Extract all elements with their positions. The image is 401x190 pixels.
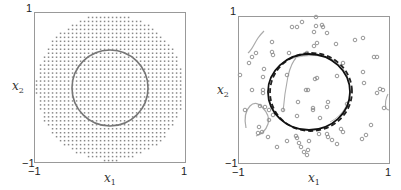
grid-point xyxy=(128,60,130,62)
grid-point xyxy=(92,116,94,118)
grid-point xyxy=(152,56,154,58)
grid-point xyxy=(80,68,82,70)
grid-point xyxy=(168,80,170,82)
grid-point xyxy=(144,136,146,138)
grid-point xyxy=(48,56,50,58)
grid-point xyxy=(64,45,65,47)
grid-point xyxy=(92,156,94,158)
grid-point xyxy=(68,68,70,70)
grid-point xyxy=(148,96,150,98)
grid-point xyxy=(140,41,142,43)
grid-point xyxy=(156,60,158,62)
grid-point xyxy=(144,52,146,54)
grid-point xyxy=(96,148,98,150)
grid-point xyxy=(148,116,150,118)
grid-point xyxy=(52,52,54,54)
grid-point xyxy=(128,88,130,90)
grid-point xyxy=(140,72,142,74)
grid-point xyxy=(132,41,134,43)
grid-point xyxy=(128,128,130,130)
grid-point xyxy=(112,152,114,154)
grid-point xyxy=(80,29,82,31)
grid-point xyxy=(96,132,98,134)
grid-point xyxy=(48,120,50,122)
grid-point xyxy=(164,104,166,106)
grid-point xyxy=(116,108,118,110)
grid-point xyxy=(168,124,170,126)
grid-point xyxy=(164,84,166,86)
grid-point xyxy=(72,45,74,47)
grid-point xyxy=(148,37,150,39)
grid-point xyxy=(88,41,90,43)
grid-point xyxy=(60,33,62,35)
grid-point xyxy=(120,25,122,27)
grid-point xyxy=(152,60,154,62)
grid-point xyxy=(148,45,150,47)
grid-point xyxy=(40,96,42,98)
grid-point xyxy=(160,108,162,110)
grid-point xyxy=(68,104,70,106)
grid-point xyxy=(88,140,90,142)
grid-point xyxy=(136,144,138,146)
sample-point xyxy=(306,148,310,152)
grid-point xyxy=(144,108,146,110)
y-axis-label: x2 xyxy=(217,84,229,101)
grid-point xyxy=(52,64,54,66)
grid-point xyxy=(60,88,62,90)
sample-point xyxy=(335,74,339,78)
grid-point xyxy=(48,100,50,102)
grid-point xyxy=(88,152,90,154)
grid-point xyxy=(76,41,78,43)
grid-point xyxy=(88,88,90,90)
grid-point xyxy=(112,108,114,110)
grid-point xyxy=(152,88,154,90)
grid-point xyxy=(164,108,166,110)
sample-point xyxy=(318,116,322,120)
grid-point xyxy=(152,29,154,31)
grid-point xyxy=(92,92,94,94)
grid-point xyxy=(136,33,138,35)
grid-point xyxy=(160,41,162,43)
grid-point xyxy=(84,96,86,98)
grid-point xyxy=(104,160,106,162)
grid-point xyxy=(120,100,122,102)
grid-point xyxy=(100,88,102,90)
grid-point xyxy=(56,124,58,126)
grid-point xyxy=(104,21,106,23)
grid-point xyxy=(124,116,126,118)
grid-point xyxy=(88,148,90,150)
grid-point xyxy=(80,148,82,150)
grid-point xyxy=(160,136,162,138)
grid-point xyxy=(176,76,178,78)
grid-point xyxy=(112,148,114,150)
grid-point xyxy=(172,112,174,114)
grid-point xyxy=(160,80,162,82)
grid-point xyxy=(76,60,78,62)
grid-point xyxy=(172,104,174,106)
grid-point xyxy=(76,37,78,39)
grid-point xyxy=(104,116,106,118)
grid-point xyxy=(52,128,54,130)
grid-point xyxy=(100,136,102,138)
grid-point xyxy=(120,49,122,51)
grid-point xyxy=(136,128,138,130)
grid-point xyxy=(76,96,78,98)
grid-point xyxy=(152,76,154,78)
grid-point xyxy=(40,84,42,86)
grid-point xyxy=(164,68,166,70)
grid-point xyxy=(108,156,110,158)
grid-point xyxy=(104,136,106,138)
grid-point xyxy=(96,112,98,114)
grid-point xyxy=(108,152,110,154)
grid-point xyxy=(128,100,130,102)
grid-point xyxy=(112,96,114,98)
plot-frame xyxy=(35,13,186,163)
grid-point xyxy=(64,80,65,82)
grid-point xyxy=(100,112,102,114)
sample-point xyxy=(262,67,266,71)
grid-point xyxy=(92,45,94,47)
grid-point xyxy=(152,92,154,94)
grid-point xyxy=(152,144,154,146)
grid-point xyxy=(44,100,46,102)
grid-point xyxy=(112,132,114,134)
